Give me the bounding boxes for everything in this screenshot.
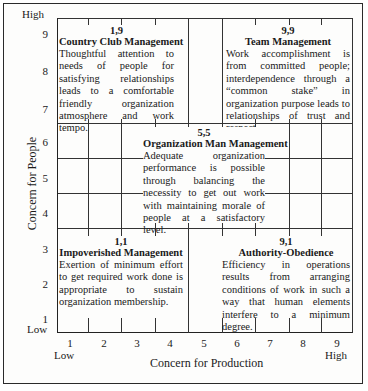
impoverished-management-box: 1,1 Impoverished Management Exertion of …	[59, 236, 183, 318]
style-coordinate: 5,5	[143, 127, 265, 138]
x-axis-low-label: Low	[54, 349, 74, 361]
y-tick-7: 7	[34, 103, 48, 115]
style-coordinate: 9,1	[222, 236, 350, 247]
style-description: Exertion of minimum effort to get requir…	[59, 259, 183, 309]
x-tick-6: 6	[230, 337, 244, 349]
style-title: Impoverished Management	[59, 247, 183, 259]
style-description: Work accomplishment is from committed pe…	[226, 48, 350, 135]
style-title: Organization Man Management	[143, 138, 265, 150]
x-tick-5: 5	[197, 337, 211, 349]
style-title: Authority-Obedience	[222, 247, 350, 259]
organization-man-management-box: 5,5 Organization Man Management Adequate…	[143, 127, 265, 223]
style-coordinate: 1,9	[59, 25, 174, 36]
country-club-management-box: 1,9 Country Club Management Thoughtful a…	[59, 25, 174, 119]
y-axis-low-label: Low	[27, 323, 47, 335]
y-tick-8: 8	[34, 65, 48, 77]
y-tick-2: 2	[34, 278, 48, 290]
style-title: Country Club Management	[59, 36, 174, 48]
x-tick-2: 2	[97, 337, 111, 349]
y-axis-title: Concern for People	[25, 124, 40, 244]
style-description: Efficiency in operations results from ar…	[222, 259, 350, 333]
style-title: Team Management	[226, 36, 350, 48]
x-tick-3: 3	[130, 337, 144, 349]
x-tick-4: 4	[163, 337, 177, 349]
style-description: Thoughtful attention to needs of people …	[59, 48, 174, 135]
x-tick-9: 9	[330, 337, 344, 349]
x-axis-title: Concern for Production	[150, 356, 263, 371]
y-tick-3: 3	[34, 243, 48, 255]
y-tick-9: 9	[34, 28, 48, 40]
style-description: Adequate organization performance is pos…	[143, 150, 265, 237]
x-tick-7: 7	[263, 337, 277, 349]
authority-obedience-box: 9,1 Authority-Obedience Efficiency in op…	[222, 236, 350, 318]
x-axis-high-label: High	[325, 349, 347, 361]
style-coordinate: 1,1	[59, 236, 183, 247]
x-tick-8: 8	[296, 337, 310, 349]
team-management-box: 9,9 Team Management Work accomplishment …	[226, 25, 350, 119]
style-coordinate: 9,9	[226, 25, 350, 36]
x-tick-1: 1	[63, 337, 77, 349]
y-axis-high-label: High	[22, 8, 44, 20]
